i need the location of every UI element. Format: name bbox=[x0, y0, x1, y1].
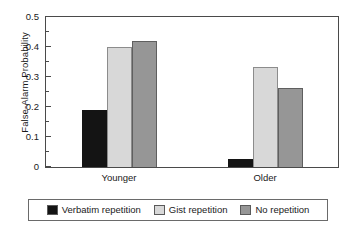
legend-label: Gist repetition bbox=[169, 205, 228, 215]
y-axis-tick-label: 0.3 bbox=[3, 72, 39, 82]
y-axis-tick-label: 0 bbox=[3, 162, 39, 172]
y-axis-major-tick bbox=[46, 166, 51, 167]
y-axis-tick-label: 0.1 bbox=[3, 132, 39, 142]
y-axis-major-tick bbox=[46, 46, 51, 47]
bar-older-gist-repetition bbox=[253, 67, 278, 168]
y-axis-major-tick bbox=[46, 16, 51, 17]
bar-older-verbatim-repetition bbox=[228, 159, 253, 167]
legend-item: Gist repetition bbox=[154, 205, 228, 215]
x-axis-tick-label: Older bbox=[205, 172, 325, 183]
bar-younger-gist-repetition bbox=[107, 47, 132, 167]
bar-younger-no-repetition bbox=[132, 41, 157, 167]
chart-legend: Verbatim repetition Gist repetition No r… bbox=[28, 199, 328, 221]
x-axis-tick-label: Younger bbox=[59, 172, 179, 183]
legend-swatch-no-repetition bbox=[240, 205, 251, 215]
legend-label: Verbatim repetition bbox=[62, 205, 141, 215]
legend-label: No repetition bbox=[255, 205, 309, 215]
y-axis-minor-tick bbox=[46, 91, 49, 92]
legend-swatch-gist-repetition bbox=[154, 205, 165, 215]
plot-area bbox=[45, 16, 339, 168]
plot-inner bbox=[46, 17, 338, 167]
y-axis-minor-tick bbox=[46, 61, 49, 62]
chart-figure: False-Alarm Probability 00.10.20.30.40.5… bbox=[0, 0, 354, 235]
legend-swatch-verbatim-repetition bbox=[47, 205, 58, 215]
y-axis-minor-tick bbox=[46, 151, 49, 152]
legend-item: No repetition bbox=[240, 205, 309, 215]
bar-older-no-repetition bbox=[278, 88, 303, 168]
y-axis-tick-label: 0.5 bbox=[3, 12, 39, 22]
y-axis-minor-tick bbox=[46, 31, 49, 32]
bar-younger-verbatim-repetition bbox=[82, 110, 107, 167]
y-axis-major-tick bbox=[46, 106, 51, 107]
y-axis-tick-label: 0.2 bbox=[3, 102, 39, 112]
y-axis-minor-tick bbox=[46, 121, 49, 122]
y-axis-major-tick bbox=[46, 136, 51, 137]
legend-item: Verbatim repetition bbox=[47, 205, 141, 215]
y-axis-tick-label: 0.4 bbox=[3, 42, 39, 52]
y-axis-major-tick bbox=[46, 76, 51, 77]
